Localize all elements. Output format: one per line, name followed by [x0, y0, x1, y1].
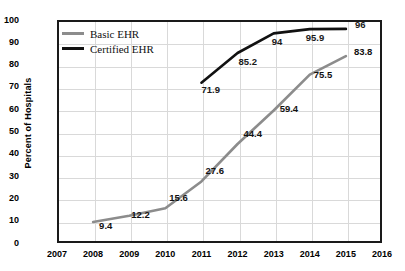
y-axis-tick-40: 40	[0, 149, 19, 158]
x-axis-tick-2009: 2009	[109, 250, 149, 259]
x-axis-tick-2010: 2010	[145, 250, 185, 259]
y-axis-tick-50: 50	[0, 127, 19, 136]
x-axis-tick-2013: 2013	[254, 250, 294, 259]
data-label-certified-ehr-2012: 85.2	[239, 57, 258, 67]
x-axis-tick-2007: 2007	[37, 250, 77, 259]
x-axis-tick-2011: 2011	[181, 250, 221, 259]
x-axis-tick-2015: 2015	[326, 250, 366, 259]
data-label-basic-ehr-2013: 59.4	[280, 104, 299, 114]
legend-item-certified-ehr: Certified EHR	[62, 41, 154, 56]
y-axis-tick-80: 80	[0, 60, 19, 69]
y-axis-tick-70: 70	[0, 82, 19, 91]
x-axis-tick-2008: 2008	[73, 250, 113, 259]
data-label-certified-ehr-2014: 95.9	[306, 33, 325, 43]
data-label-certified-ehr-2011: 71.9	[201, 85, 220, 95]
y-axis-tick-10: 10	[0, 216, 19, 225]
y-axis-tick-0: 0	[0, 239, 19, 248]
y-axis-tick-90: 90	[0, 38, 19, 47]
data-label-basic-ehr-2010: 15.6	[169, 193, 188, 203]
data-label-basic-ehr-2015: 83.8	[354, 47, 373, 57]
data-label-basic-ehr-2008: 9.4	[99, 221, 112, 231]
legend-label-certified-ehr: Certified EHR	[90, 43, 154, 55]
data-label-certified-ehr-2015: 96	[355, 20, 366, 30]
line-basic-ehr	[93, 56, 346, 222]
y-axis-tick-30: 30	[0, 172, 19, 181]
chart-legend: Basic EHR Certified EHR	[62, 26, 154, 56]
y-axis-tick-100: 100	[0, 16, 19, 25]
data-label-basic-ehr-2012: 44.4	[244, 129, 263, 139]
legend-swatch-certified-ehr	[62, 47, 84, 50]
legend-swatch-basic-ehr	[62, 32, 84, 35]
x-axis-tick-2016: 2016	[362, 250, 402, 259]
data-label-certified-ehr-2013: 94	[272, 37, 283, 47]
chart-container: Percent of Hospitals 0102030405060708090…	[0, 0, 405, 271]
x-axis-tick-2012: 2012	[218, 250, 258, 259]
y-axis-tick-60: 60	[0, 105, 19, 114]
legend-label-basic-ehr: Basic EHR	[90, 28, 139, 40]
data-label-basic-ehr-2009: 12.2	[131, 210, 150, 220]
legend-item-basic-ehr: Basic EHR	[62, 26, 154, 41]
y-axis-title: Percent of Hospitals	[23, 43, 33, 203]
data-label-basic-ehr-2014: 75.5	[314, 70, 333, 80]
x-axis-tick-2014: 2014	[290, 250, 330, 259]
data-label-basic-ehr-2011: 27.6	[205, 166, 224, 176]
y-axis-tick-20: 20	[0, 194, 19, 203]
